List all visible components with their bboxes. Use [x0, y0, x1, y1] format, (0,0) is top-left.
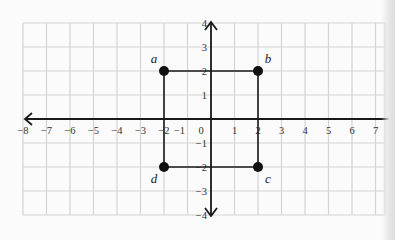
coordinate-plane: −8−7−6−5−4−3−2−1012345674321−1−2−3−4 abc… [0, 0, 395, 240]
page-fold-shadow [381, 0, 395, 240]
point-b [253, 66, 263, 76]
point-a [159, 66, 169, 76]
point-label-b: b [265, 51, 272, 66]
y-tick-label: −3 [196, 186, 207, 197]
y-tick-label: 3 [202, 42, 207, 53]
y-tick-label: −1 [196, 138, 207, 149]
x-tick-label: −4 [111, 125, 123, 136]
coordinate-grid-svg: −8−7−6−5−4−3−2−1012345674321−1−2−3−4 abc… [0, 0, 395, 240]
x-tick-label: 1 [232, 125, 237, 136]
point-d [159, 162, 169, 172]
x-tick-label: −5 [88, 125, 99, 136]
x-tick-label: 7 [373, 125, 378, 136]
x-tick-label: 3 [279, 125, 284, 136]
x-tick-label: −3 [135, 125, 146, 136]
axes [25, 22, 392, 216]
x-tick-label: −8 [17, 125, 28, 136]
x-tick-label: −6 [64, 125, 75, 136]
x-tick-label: −7 [41, 125, 52, 136]
x-tick-label: 6 [349, 125, 354, 136]
point-c [253, 162, 263, 172]
x-tick-label: −1 [174, 125, 185, 136]
y-tick-label: −4 [196, 210, 208, 221]
x-tick-label: 4 [302, 125, 308, 136]
point-label-a: a [151, 51, 158, 66]
x-tick-label: 5 [326, 125, 331, 136]
point-label-d: d [151, 171, 158, 186]
y-tick-label: 1 [202, 90, 207, 101]
y-tick-label: 4 [202, 18, 208, 29]
point-label-c: c [265, 171, 271, 186]
x-tick-label: 0 [198, 125, 203, 136]
